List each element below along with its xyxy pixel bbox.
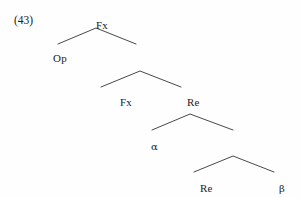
tree-branch-peak-2: [101, 71, 181, 87]
syntax-tree-figure: (43) FxOpFxReαReβ: [0, 0, 301, 198]
tree-node-op: Op: [53, 53, 67, 64]
tree-branch-lines: [0, 0, 301, 198]
tree-branch-peak-4: [194, 156, 274, 172]
tree-branch-peak-3: [152, 114, 233, 130]
tree-node-root: Fx: [96, 20, 108, 31]
tree-node-re3: Re: [200, 183, 213, 194]
tree-node-alpha: α: [151, 141, 158, 152]
tree-node-re2: Re: [187, 97, 200, 108]
tree-node-beta: β: [279, 183, 285, 194]
tree-node-fx2: Fx: [120, 97, 132, 108]
